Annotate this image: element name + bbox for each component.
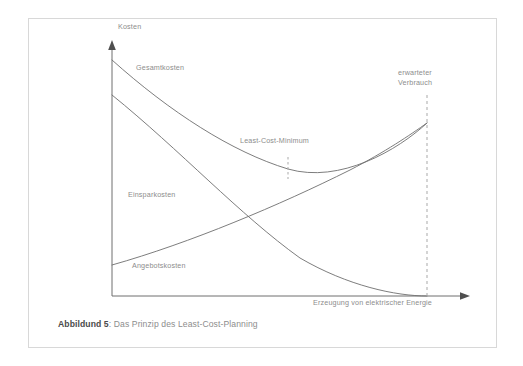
curve-label-gesamtkosten: Gesamtkosten: [136, 63, 184, 73]
annotation-expected-demand: erwarteterVerbrauch: [398, 68, 432, 87]
least-cost-planning-plot: [0, 0, 523, 366]
y-axis-label: Kosten: [118, 22, 141, 32]
curve-label-einsparkosten: Einsparkosten: [128, 190, 176, 200]
annotation-expected-demand-line1: erwarteter: [398, 68, 432, 77]
x-axis-arrowhead: [460, 292, 470, 300]
annotation-expected-demand-line2: Verbrauch: [398, 78, 432, 87]
figure-caption: Abbildund 5: Das Prinzip des Least-Cost-…: [58, 319, 258, 329]
x-axis-label: Erzeugung von elektrischer Energie: [313, 298, 432, 308]
annotation-least-cost-minimum: Least-Cost-Minimum: [240, 136, 309, 146]
figure-root: Kosten Gesamtkosten Einsparkosten Angebo…: [0, 0, 523, 366]
figure-caption-text: : Das Prinzip des Least-Cost-Planning: [109, 319, 258, 329]
curve-gesamtkosten: [112, 60, 427, 173]
y-axis-arrowhead: [108, 40, 116, 50]
figure-caption-prefix: Abbildund 5: [58, 319, 109, 329]
curve-label-angebotskosten: Angebotskosten: [132, 261, 186, 271]
